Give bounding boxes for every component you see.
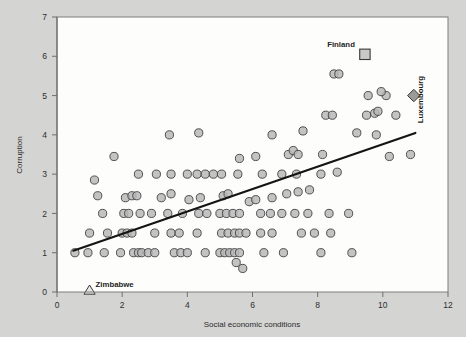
data-point: [85, 229, 93, 237]
data-point: [335, 70, 343, 78]
data-point: [283, 190, 291, 198]
data-point: [167, 190, 175, 198]
data-point: [252, 152, 260, 160]
data-point: [345, 209, 353, 217]
data-point: [385, 152, 393, 160]
x-tick-label: 0: [55, 300, 60, 310]
data-point: [84, 249, 92, 257]
data-point: [353, 129, 361, 137]
data-point: [257, 229, 265, 237]
data-point: [193, 170, 201, 178]
data-point: [305, 186, 313, 194]
data-point: [195, 209, 203, 217]
data-point: [103, 229, 111, 237]
highlight-label: Finland: [327, 40, 355, 49]
x-tick-label: 4: [185, 300, 190, 310]
data-point: [258, 170, 266, 178]
data-point: [147, 209, 155, 217]
data-point: [328, 111, 336, 119]
data-point: [235, 209, 243, 217]
data-point: [183, 249, 191, 257]
y-axis-title: Corruption: [15, 136, 24, 173]
data-point: [362, 111, 370, 119]
x-tick-label: 6: [250, 300, 255, 310]
y-tick-label: 4: [42, 130, 47, 140]
x-tick-label: 12: [443, 300, 453, 310]
data-point: [291, 209, 299, 217]
data-point: [185, 196, 193, 204]
data-point: [406, 150, 414, 158]
data-point: [116, 249, 124, 257]
data-point: [235, 249, 243, 257]
highlight-marker-square: [360, 49, 370, 59]
data-point: [268, 194, 276, 202]
data-point: [260, 249, 268, 257]
data-point: [294, 150, 302, 158]
data-point: [317, 170, 325, 178]
data-point: [99, 209, 107, 217]
x-tick-label: 2: [120, 300, 125, 310]
data-point: [167, 229, 175, 237]
data-point: [201, 170, 209, 178]
data-point: [235, 154, 243, 162]
data-point: [297, 229, 305, 237]
data-point: [294, 188, 302, 196]
data-point: [167, 170, 175, 178]
data-point: [134, 170, 142, 178]
data-point: [196, 194, 204, 202]
y-tick-label: 3: [42, 169, 47, 179]
data-point: [392, 111, 400, 119]
y-tick-label: 0: [42, 287, 47, 297]
data-point: [268, 229, 276, 237]
data-point: [327, 229, 335, 237]
y-tick-label: 2: [42, 209, 47, 219]
data-point: [364, 91, 372, 99]
data-point: [209, 170, 217, 178]
data-point: [257, 209, 265, 217]
data-point: [110, 152, 118, 160]
data-point: [183, 170, 191, 178]
data-point: [266, 209, 274, 217]
data-point: [201, 249, 209, 257]
highlight-label: Luxembourg: [416, 76, 425, 123]
data-point: [268, 131, 276, 139]
data-point: [100, 249, 108, 257]
data-point: [152, 170, 160, 178]
data-point: [165, 131, 173, 139]
y-tick-label: 6: [42, 51, 47, 61]
data-point: [90, 176, 98, 184]
data-point: [217, 170, 225, 178]
data-point: [239, 264, 247, 272]
data-point: [310, 229, 318, 237]
highlight-label: Zimbabwe: [96, 280, 135, 289]
y-tick-label: 7: [42, 12, 47, 22]
y-tick-label: 1: [42, 248, 47, 258]
data-point: [133, 192, 141, 200]
data-point: [232, 258, 240, 266]
data-point: [242, 229, 250, 237]
data-point: [175, 229, 183, 237]
data-point: [157, 194, 165, 202]
data-point: [317, 249, 325, 257]
data-point: [377, 88, 385, 96]
data-point: [234, 170, 242, 178]
data-point: [125, 209, 133, 217]
data-point: [372, 131, 380, 139]
data-point: [333, 168, 341, 176]
data-point: [151, 229, 159, 237]
x-tick-label: 8: [315, 300, 320, 310]
data-point: [94, 192, 102, 200]
data-point: [279, 249, 287, 257]
data-point: [304, 209, 312, 217]
data-point: [195, 129, 203, 137]
data-point: [348, 249, 356, 257]
data-point: [193, 229, 201, 237]
data-point: [136, 209, 144, 217]
x-axis-title: Social economic conditions: [204, 320, 301, 329]
data-point: [299, 127, 307, 135]
data-point: [203, 209, 211, 217]
data-point: [374, 107, 382, 115]
data-point: [151, 249, 159, 257]
data-point: [318, 150, 326, 158]
x-tick-label: 10: [378, 300, 388, 310]
